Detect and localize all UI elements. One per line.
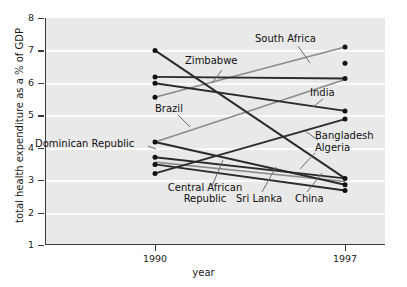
marker-1997-2.7 <box>343 188 348 193</box>
label-dominican-republic: Dominican Republic <box>35 139 134 150</box>
label-sri-lanka: Sri Lanka <box>236 194 282 205</box>
marker-1990-5.55 <box>153 95 158 100</box>
label-china: China <box>295 194 324 205</box>
marker-1990-6.0 <box>153 81 158 86</box>
marker-1990-4.17 <box>153 140 158 145</box>
marker-1997-6.15 <box>343 76 348 81</box>
label-algeria: Algeria <box>315 143 350 154</box>
label-central-african-line2: Republic <box>184 193 227 204</box>
marker-1997-2.88 <box>343 182 348 187</box>
marker-1997-6.45 <box>343 61 348 66</box>
chart-figure: 8 7 6 5 4 3 2 1 1990 1997 year total hea… <box>0 0 407 287</box>
marker-1997-4.88 <box>343 117 348 122</box>
marker-1990-3.2 <box>153 171 158 176</box>
marker-1997-3.05 <box>343 176 348 181</box>
series-zimbabwe <box>155 77 345 79</box>
label-south-africa: South Africa <box>255 34 316 45</box>
label-central-african-line1: Central African <box>168 182 242 193</box>
marker-1997-7.1 <box>343 45 348 50</box>
series-brazil <box>155 50 345 178</box>
label-brazil: Brazil <box>155 104 183 115</box>
data-markers-1997 <box>343 45 348 193</box>
label-india: India <box>310 88 335 99</box>
marker-1990-3.7 <box>153 155 158 160</box>
marker-1997-5.15 <box>343 108 348 113</box>
marker-1990-7.0 <box>153 48 158 53</box>
marker-1990-6.2 <box>153 74 158 79</box>
label-bangladesh: Bangladesh <box>315 131 374 142</box>
label-zimbabwe: Zimbabwe <box>185 56 238 67</box>
marker-1990-3.48 <box>153 162 158 167</box>
